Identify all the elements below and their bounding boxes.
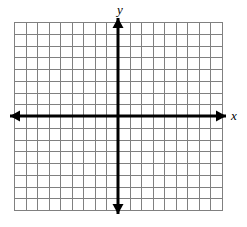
coordinate-plane-graphic	[0, 0, 247, 227]
coordinate-plane-figure: y x	[0, 0, 247, 227]
x-axis-label: x	[231, 109, 245, 122]
y-axis-label: y	[113, 3, 127, 16]
